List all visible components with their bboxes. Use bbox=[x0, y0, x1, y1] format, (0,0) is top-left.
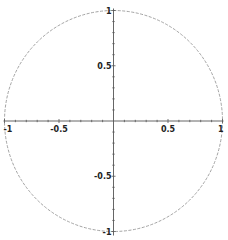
unit-circle-chart: -1 -0.5 0.5 1 1 0.5 -0.5 -1 bbox=[0, 0, 228, 240]
y-tick-label: 0.5 bbox=[97, 62, 112, 71]
y-tick-label: -0.5 bbox=[94, 172, 112, 181]
x-tick-label: -0.5 bbox=[50, 125, 68, 134]
x-tick-label: 0.5 bbox=[161, 125, 176, 134]
plot-area: -1 -0.5 0.5 1 1 0.5 -0.5 -1 bbox=[4, 7, 224, 237]
x-tick-label: 1 bbox=[218, 125, 224, 134]
y-tick-label: 1 bbox=[106, 7, 112, 16]
x-tick-label: -1 bbox=[4, 125, 13, 134]
y-tick-label: -1 bbox=[103, 228, 112, 237]
